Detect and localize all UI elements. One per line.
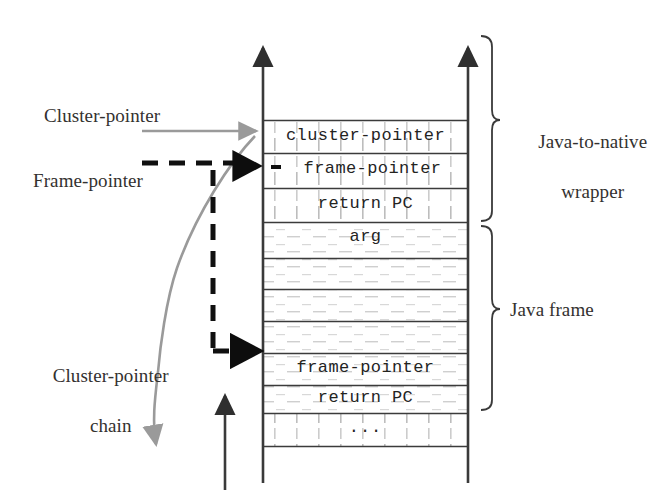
label-frame-pointer: Frame-pointer bbox=[33, 168, 143, 193]
cell-text-cluster-pointer: cluster-pointer bbox=[263, 126, 468, 145]
label-java-frame: Java frame bbox=[510, 297, 594, 322]
bracket-java-to-native-wrapper bbox=[481, 36, 500, 221]
label-cluster-pointer-chain: Cluster-pointer chain bbox=[16, 338, 186, 463]
cell-text-return-pc-bottom: return PC bbox=[263, 388, 468, 407]
cell-text-frame-pointer-bottom: frame-pointer bbox=[263, 358, 468, 377]
label-cluster-pointer-chain-line1: Cluster-pointer bbox=[53, 365, 169, 386]
stack-layout-diagram: cluster-pointer frame-pointer return PC … bbox=[0, 0, 667, 498]
label-cluster-pointer-chain-line2: chain bbox=[90, 415, 132, 436]
label-java-to-native-wrapper-line1: Java-to-native bbox=[538, 131, 647, 152]
arrow-frame-pointer-bottom bbox=[213, 170, 259, 351]
bracket-java-frame bbox=[481, 226, 500, 410]
cell-text-frame-pointer-top: frame-pointer bbox=[270, 159, 475, 178]
cell-text-arg: arg bbox=[263, 227, 468, 246]
arrow-frame-pointer-top bbox=[142, 163, 258, 168]
cell-text-return-pc-top: return PC bbox=[263, 194, 468, 213]
label-cluster-pointer: Cluster-pointer bbox=[44, 103, 160, 128]
cell-text-ellipsis: ... bbox=[263, 418, 468, 437]
label-java-to-native-wrapper-line2: wrapper bbox=[561, 181, 624, 202]
label-java-to-native-wrapper: Java-to-native wrapper bbox=[508, 104, 658, 229]
